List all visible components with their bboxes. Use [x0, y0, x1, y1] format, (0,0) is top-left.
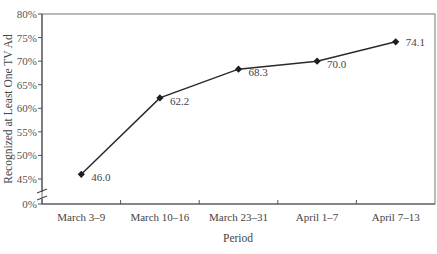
y-tick-label: 65% — [17, 79, 37, 91]
y-tick-label: 75% — [17, 32, 37, 44]
data-label: 62.2 — [170, 95, 189, 107]
x-category-label: March 23–31 — [209, 211, 268, 223]
y-tick-label: 80% — [17, 8, 37, 20]
y-ticks: 0%45%50%55%60%65%70%75%80% — [17, 8, 42, 210]
data-label: 46.0 — [91, 171, 111, 183]
diamond-marker-icon — [314, 58, 321, 65]
y-tick-label: 70% — [17, 55, 37, 67]
x-category-label: April 1–7 — [296, 211, 339, 223]
series-line — [81, 42, 395, 174]
x-category-label: March 3–9 — [57, 211, 105, 223]
diamond-marker-icon — [235, 66, 242, 73]
x-category-label: April 7–13 — [372, 211, 420, 223]
diamond-marker-icon — [392, 38, 399, 45]
y-tick-label: 60% — [17, 102, 37, 114]
data-markers — [78, 38, 400, 178]
data-label: 74.1 — [406, 36, 425, 48]
y-axis-title: Recognized at Least One TV Ad — [2, 34, 15, 184]
x-category-label: March 10–16 — [130, 211, 189, 223]
data-label: 70.0 — [327, 58, 347, 70]
y-tick-label: 55% — [17, 126, 37, 138]
line-chart: 0%45%50%55%60%65%70%75%80% March 3–9Marc… — [0, 0, 437, 254]
y-tick-label: 0% — [22, 198, 37, 210]
data-label: 68.3 — [249, 66, 269, 78]
y-tick-label: 50% — [17, 149, 37, 161]
x-category-labels: March 3–9March 10–16March 23–31April 1–7… — [57, 211, 420, 223]
y-tick-label: 45% — [17, 173, 37, 185]
x-axis-title: Period — [223, 232, 253, 244]
data-labels: 46.062.268.370.074.1 — [91, 36, 425, 183]
